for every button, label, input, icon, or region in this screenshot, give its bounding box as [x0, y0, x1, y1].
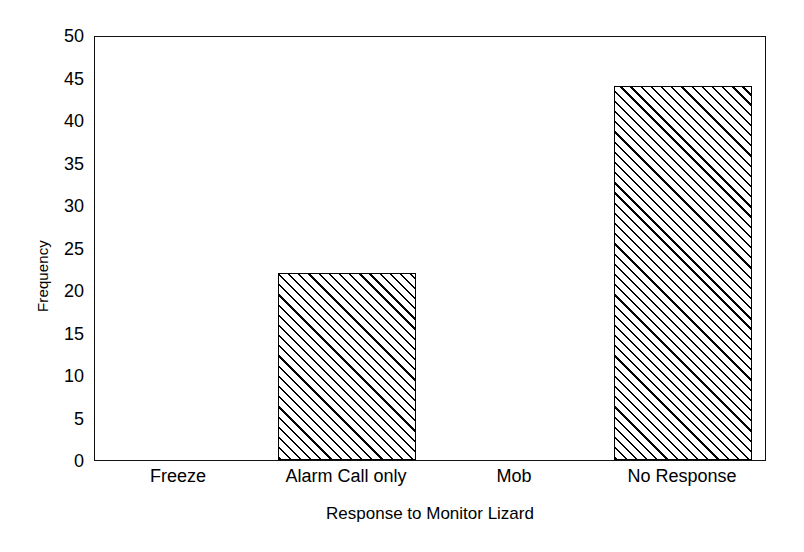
x-axis-title: Response to Monitor Lizard [94, 504, 766, 524]
bar [278, 273, 416, 460]
plot-area [94, 36, 766, 461]
x-axis-tick-labels: FreezeAlarm Call onlyMobNo Response [94, 466, 766, 494]
bars-container [95, 37, 765, 460]
x-tick-label: Freeze [150, 466, 206, 488]
bar-chart-figure: Frequency 05101520253035404550 FreezeAla… [0, 0, 804, 552]
bar [614, 86, 752, 460]
x-tick-label: Alarm Call only [285, 466, 406, 488]
x-tick-label: No Response [627, 466, 736, 488]
y-axis-title: Frequency [22, 0, 62, 552]
x-tick-label: Mob [496, 466, 531, 488]
